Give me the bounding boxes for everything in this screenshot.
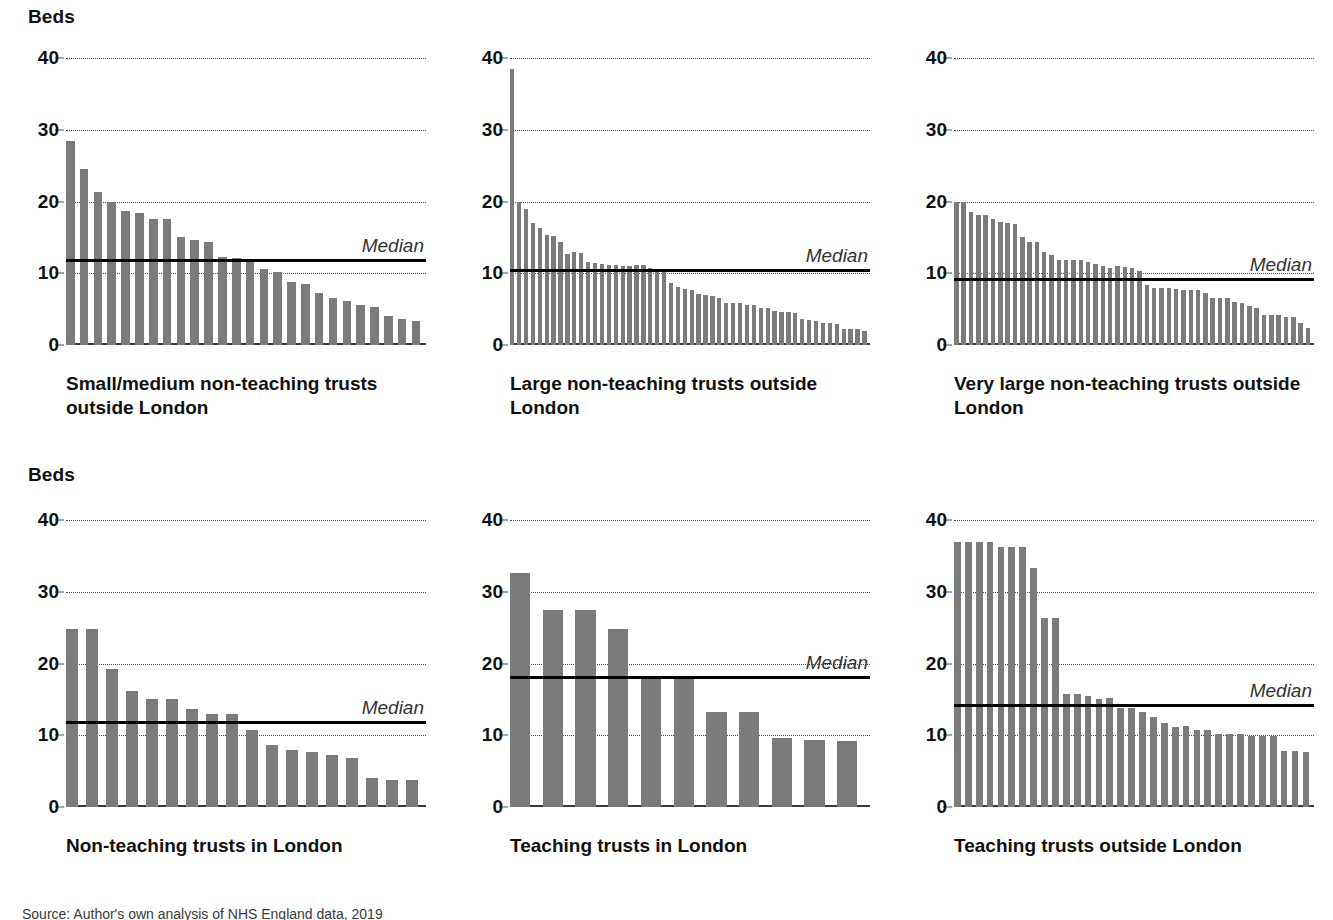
- bar: [517, 202, 521, 346]
- bar: [551, 236, 555, 345]
- bar: [641, 679, 661, 807]
- y-tick-label-0: 0: [492, 334, 503, 356]
- bar: [204, 242, 213, 345]
- bar: [1203, 293, 1208, 345]
- bar: [614, 265, 618, 345]
- bar: [1247, 306, 1252, 345]
- bar: [745, 305, 749, 345]
- plot-area-6: 010203040Median: [954, 520, 1314, 807]
- bar: [738, 303, 742, 345]
- bar: [306, 752, 318, 807]
- bar: [326, 755, 338, 807]
- bar: [356, 305, 365, 345]
- bar: [1226, 734, 1233, 807]
- bar: [1167, 288, 1172, 345]
- bar: [1172, 727, 1179, 807]
- bar: [634, 265, 638, 345]
- panel-title-3: Very large non-teaching trusts outside L…: [954, 372, 1326, 421]
- bar: [1284, 317, 1289, 345]
- plot-area-2: 010203040Median: [510, 58, 870, 345]
- bar: [575, 610, 595, 807]
- y-tick-label-20: 20: [926, 191, 947, 213]
- bar: [273, 272, 282, 345]
- bar: [86, 629, 98, 807]
- bar: [607, 265, 611, 345]
- bar: [1215, 734, 1222, 807]
- bar: [1042, 252, 1047, 345]
- chart-panel-6: 010203040Median Teaching trusts outside …: [888, 478, 1333, 916]
- panel-title-1: Small/medium non-teaching trusts outside…: [66, 372, 438, 421]
- bar: [1276, 315, 1281, 345]
- bar-series: [66, 58, 426, 345]
- bar: [232, 258, 241, 345]
- bar: [821, 323, 825, 345]
- bar: [406, 780, 418, 807]
- bar: [266, 745, 278, 807]
- median-line: [66, 259, 426, 262]
- bar: [538, 228, 542, 345]
- bar: [961, 202, 966, 346]
- y-tick-label-30: 30: [482, 119, 503, 141]
- y-tick-label-10: 10: [926, 724, 947, 746]
- bar: [121, 211, 130, 345]
- bar: [1063, 694, 1070, 807]
- bar: [412, 321, 421, 345]
- y-tick-label-30: 30: [38, 581, 59, 603]
- median-line: [66, 721, 426, 724]
- bar: [1303, 752, 1310, 807]
- median-line: [954, 278, 1314, 281]
- bar: [226, 714, 238, 807]
- bar: [1189, 290, 1194, 345]
- bar: [398, 319, 407, 345]
- bar: [260, 269, 269, 345]
- bar: [510, 573, 530, 807]
- bar: [163, 219, 172, 345]
- bar: [206, 714, 218, 807]
- y-tick-label-20: 20: [482, 653, 503, 675]
- median-line: [954, 704, 1314, 707]
- y-tick-label-10: 10: [482, 724, 503, 746]
- bar: [1291, 317, 1296, 345]
- bar: [862, 331, 866, 345]
- panel-title-4: Non-teaching trusts in London: [66, 834, 438, 858]
- bar: [690, 290, 694, 345]
- plot-area-4: 010203040Median: [66, 520, 426, 807]
- bar: [1159, 288, 1164, 345]
- bar: [1064, 260, 1069, 345]
- bar: [1096, 699, 1103, 807]
- plot-area-5: 010203040Median: [510, 520, 870, 807]
- bar: [1270, 736, 1277, 807]
- bar: [66, 629, 78, 807]
- bar: [366, 778, 378, 807]
- bar: [1071, 260, 1076, 345]
- bar: [1086, 262, 1091, 345]
- bar: [739, 712, 759, 807]
- bar: [1005, 223, 1010, 345]
- bar: [1248, 736, 1255, 807]
- bar: [287, 282, 296, 345]
- y-tick-label-0: 0: [48, 796, 59, 818]
- bar: [1292, 751, 1299, 807]
- bar: [1237, 734, 1244, 807]
- bar: [766, 308, 770, 345]
- bar: [842, 329, 846, 346]
- bar: [1139, 712, 1146, 807]
- bar: [710, 296, 714, 346]
- y-tick-label-30: 30: [482, 581, 503, 603]
- y-tick-label-20: 20: [482, 191, 503, 213]
- bar: [1281, 751, 1288, 807]
- bar: [676, 287, 680, 345]
- bar: [674, 679, 694, 807]
- panel-title-2: Large non-teaching trusts outside London: [510, 372, 882, 421]
- plot-area-3: 010203040Median: [954, 58, 1314, 345]
- bar: [1174, 289, 1179, 345]
- bar: [66, 141, 75, 345]
- bar: [1306, 328, 1311, 345]
- y-tick-label-20: 20: [38, 653, 59, 675]
- bar: [662, 272, 666, 345]
- bar: [987, 542, 994, 807]
- bar: [1218, 298, 1223, 345]
- bar: [1128, 708, 1135, 807]
- bar: [149, 219, 158, 345]
- bar: [786, 312, 790, 345]
